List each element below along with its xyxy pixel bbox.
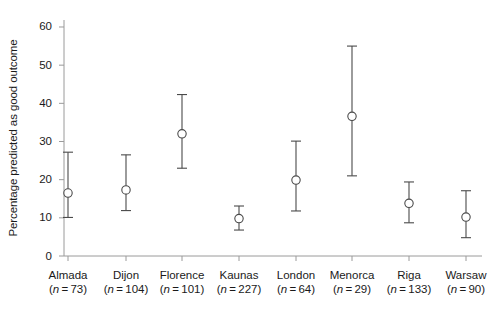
data-series-errorbars <box>63 46 471 238</box>
x-category-sample-size: (n = 101) <box>160 282 205 296</box>
y-tick-label: 10 <box>24 211 52 223</box>
x-category-sample-size: (n = 64) <box>277 282 315 296</box>
data-point-marker <box>235 214 243 222</box>
x-category-label: Dijon(n = 104) <box>104 268 149 296</box>
x-category-name: Almada <box>49 269 88 281</box>
x-category-name: Kaunas <box>219 269 258 281</box>
x-category-label: London(n = 64) <box>277 268 315 296</box>
x-category-label: Menorca(n = 29) <box>330 268 375 296</box>
data-point-marker <box>178 130 186 138</box>
y-tick-label: 60 <box>24 20 52 32</box>
y-tick-label: 0 <box>24 250 52 262</box>
data-point-marker <box>348 112 356 120</box>
x-category-name: Riga <box>397 269 421 281</box>
errorbar-point <box>404 182 414 223</box>
y-tick-label: 50 <box>24 59 52 71</box>
y-tick-label: 30 <box>24 135 52 147</box>
x-category-label: Kaunas(n = 227) <box>217 268 262 296</box>
x-category-label: Almada(n = 73) <box>49 268 88 296</box>
x-category-label: Riga(n = 133) <box>387 268 432 296</box>
x-category-name: Warsaw <box>445 269 486 281</box>
x-category-sample-size: (n = 104) <box>104 282 149 296</box>
x-category-name: Menorca <box>330 269 375 281</box>
data-point-marker <box>462 213 470 221</box>
x-tick-marks <box>68 256 466 261</box>
x-category-sample-size: (n = 29) <box>330 282 375 296</box>
x-category-sample-size: (n = 133) <box>387 282 432 296</box>
data-point-marker <box>405 199 413 207</box>
x-category-sample-size: (n = 90) <box>445 282 486 296</box>
x-category-sample-size: (n = 73) <box>49 282 88 296</box>
x-category-label: Florence(n = 101) <box>160 268 205 296</box>
data-point-marker <box>64 189 72 197</box>
x-category-name: London <box>277 269 315 281</box>
errorbar-point <box>121 155 131 211</box>
errorbar-point <box>291 141 301 211</box>
y-tick-label: 20 <box>24 173 52 185</box>
data-point-marker <box>122 186 130 194</box>
errorbar-point <box>177 95 187 169</box>
x-category-sample-size: (n = 227) <box>217 282 262 296</box>
errorbar-point <box>461 191 471 238</box>
errorbar-point <box>347 46 357 176</box>
y-tick-label: 40 <box>24 97 52 109</box>
x-category-name: Dijon <box>113 269 139 281</box>
data-point-marker <box>292 176 300 184</box>
errorbar-point <box>234 206 244 230</box>
x-category-name: Florence <box>160 269 205 281</box>
chart-figure: Percentage predicted as good outcome 010… <box>0 0 499 318</box>
x-category-label: Warsaw(n = 90) <box>445 268 486 296</box>
y-tick-marks <box>59 27 64 256</box>
